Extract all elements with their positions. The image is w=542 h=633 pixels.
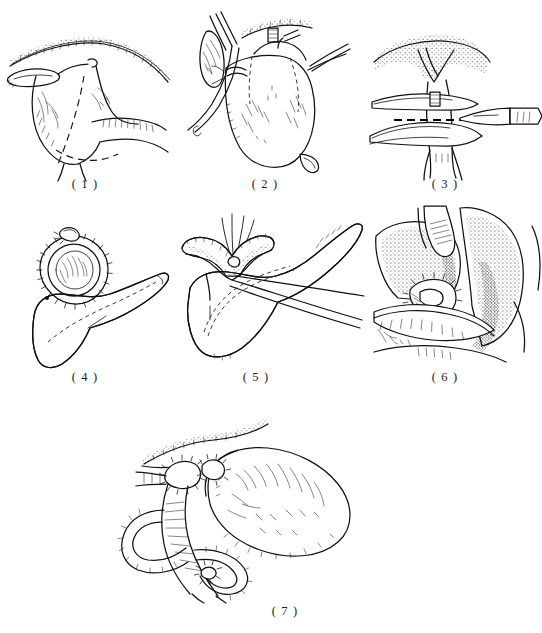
panel-5-pancreaticojejunostomy: [170, 210, 365, 372]
panel-4-duodenal-stump-closure: [14, 224, 174, 372]
panel-1-exposure-and-resection-lines: [0, 14, 180, 182]
panel-7-completed-reconstruction: [110, 418, 400, 603]
panel-3-caption: ( 3 ): [415, 177, 475, 192]
panel-1-caption: ( 1 ): [55, 177, 115, 192]
illustration-plate: ( 1 ): [0, 0, 542, 633]
panel-4-caption: ( 4 ): [55, 370, 115, 385]
panel-5-caption: ( 5 ): [226, 370, 286, 385]
panel-7-caption: ( 7 ): [255, 604, 315, 619]
panel-2-vascular-control: [186, 8, 351, 178]
panel-6-caption: ( 6 ): [415, 370, 475, 385]
panel-6-hepaticojejunostomy: [374, 206, 542, 370]
panel-2-caption: ( 2 ): [235, 177, 295, 192]
panel-3-transection-with-scalpel: [368, 20, 542, 180]
